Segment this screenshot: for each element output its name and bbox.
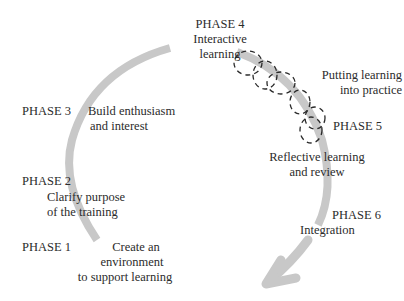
phase5-pre-label: Putting learning into practice xyxy=(302,68,402,98)
phase3-line2: and interest xyxy=(88,119,175,134)
phase5-title: PHASE 5 xyxy=(333,119,382,134)
phase5-pre1: Putting learning xyxy=(300,68,402,83)
phase1-line3: to support learning xyxy=(70,270,180,285)
phase2-label: Clarify purpose of the training xyxy=(47,190,125,220)
phase2-title: PHASE 2 xyxy=(22,174,71,189)
phase6-title: PHASE 6 xyxy=(332,208,381,223)
phase1-label: Create an environment to support learnin… xyxy=(70,240,180,285)
phase3-label: Build enthusiasm and interest xyxy=(88,104,175,134)
phase6-line1: Integration xyxy=(300,223,355,238)
phase5-pre2: into practice xyxy=(302,83,402,98)
phase1-title: PHASE 1 xyxy=(22,240,71,255)
phase1-line2: environment xyxy=(70,255,180,270)
phase5-label: Reflective learning and review xyxy=(262,150,372,180)
phase3-title: PHASE 3 xyxy=(22,104,71,119)
phase4-title: PHASE 4 xyxy=(180,17,260,32)
phase5-line2: and review xyxy=(262,165,372,180)
phase3-line1: Build enthusiasm xyxy=(88,104,175,119)
phase5-line1: Reflective learning xyxy=(262,150,372,165)
phase2-line2: of the training xyxy=(47,205,125,220)
phase4-label: PHASE 4 Interactive learning xyxy=(180,17,260,62)
phase4-line2: learning xyxy=(180,47,260,62)
phase4-line1: Interactive xyxy=(180,32,260,47)
phase1-line1: Create an xyxy=(70,240,180,255)
phase2-line1: Clarify purpose xyxy=(47,190,125,205)
